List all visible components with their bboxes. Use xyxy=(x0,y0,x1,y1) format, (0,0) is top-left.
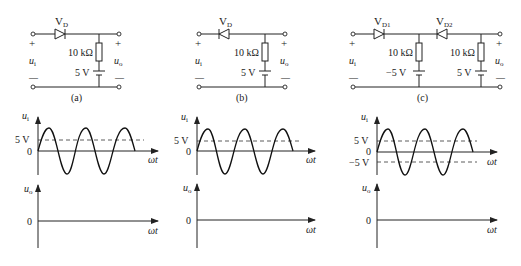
x-axis-label: ωt xyxy=(487,224,497,235)
resistor-icon xyxy=(262,43,268,61)
x-axis-label: ωt xyxy=(306,154,316,165)
input-label: ui xyxy=(29,55,36,68)
output-axes-a: uo 0 ωt xyxy=(24,183,158,248)
output-axes-b: uo 0 ωt xyxy=(183,182,316,248)
diode-label: VD xyxy=(55,15,68,29)
battery-label: 5 V xyxy=(75,67,90,78)
minus-out: — xyxy=(114,72,125,82)
y-axis-label: ui xyxy=(361,111,368,124)
zero-label: 0 xyxy=(366,215,371,226)
minus-in: — xyxy=(348,72,359,82)
diode-icon xyxy=(55,29,65,39)
battery-icon xyxy=(93,71,105,75)
battery-label: 5 V xyxy=(241,67,256,78)
y-axis-label: uo xyxy=(183,182,192,195)
plus-out: + xyxy=(281,37,287,49)
y-axis-label: ui xyxy=(181,111,188,124)
resistor1-icon xyxy=(416,43,422,61)
output-label: uo xyxy=(280,55,289,68)
caption: (a) xyxy=(71,92,82,104)
input-waveform-a: ui 5 V 0 ωt xyxy=(15,110,158,175)
diode1-icon xyxy=(374,29,384,39)
input-waveform-b: ui 5 V 0 ωt xyxy=(174,111,316,175)
battery1-icon xyxy=(413,71,425,75)
y-axis-label: uo xyxy=(24,183,33,196)
minus-in: — xyxy=(194,72,205,82)
x-axis-label: ωt xyxy=(306,224,316,235)
level-neg5v-label: −5 V xyxy=(349,157,370,168)
input-label: ui xyxy=(349,55,356,68)
caption: (b) xyxy=(236,92,248,104)
zero-label: 0 xyxy=(27,146,32,157)
output-label: uo xyxy=(495,55,504,68)
plus-in: + xyxy=(29,37,35,49)
level-5v-label: 5 V xyxy=(15,134,30,145)
diode2-label: VD2 xyxy=(436,15,453,29)
battery2-label: 5 V xyxy=(457,67,472,78)
x-axis-label: ωt xyxy=(487,156,497,167)
level-5v-label: 5 V xyxy=(174,135,189,146)
y-axis-label: ui xyxy=(22,110,29,123)
output-label: uo xyxy=(114,55,123,68)
minus-out: — xyxy=(280,72,291,82)
minus-out: — xyxy=(495,72,506,82)
diode2-icon xyxy=(437,29,447,39)
plus-out: + xyxy=(115,37,121,49)
plus-in: + xyxy=(349,37,355,49)
battery-icon xyxy=(259,71,271,75)
resistor-label: 10 kΩ xyxy=(68,47,93,58)
battery1-label: −5 V xyxy=(386,67,407,78)
plus-out: + xyxy=(496,37,502,49)
zero-label: 0 xyxy=(27,216,32,227)
zero-label: 0 xyxy=(366,146,371,157)
circuit-b: VD 10 kΩ 5 V + + — — ui uo (b) xyxy=(194,15,291,104)
circuit-a: VD 10 kΩ 5 V + + — — ui uo (a) xyxy=(28,15,125,104)
input-label: ui xyxy=(195,55,202,68)
resistor-icon xyxy=(96,43,102,61)
output-axes-c: uo 0 ωt xyxy=(362,182,497,248)
battery2-icon xyxy=(475,71,487,75)
zero-label: 0 xyxy=(186,215,191,226)
plus-in: + xyxy=(195,37,201,49)
resistor2-icon xyxy=(478,43,484,61)
zero-label: 0 xyxy=(186,146,191,157)
diode-label: VD xyxy=(219,15,232,29)
resistor1-label: 10 kΩ xyxy=(388,47,413,58)
diode1-label: VD1 xyxy=(374,15,391,29)
input-waveform-c: ui 5 V 0 −5 V ωt xyxy=(349,111,497,175)
x-axis-label: ωt xyxy=(148,225,158,236)
circuit-c: VD1 VD2 10 kΩ −5 V 10 kΩ 5 V + + — — ui … xyxy=(348,15,506,104)
resistor-label: 10 kΩ xyxy=(234,47,259,58)
level-5v-label: 5 V xyxy=(354,135,369,146)
y-axis-label: uo xyxy=(362,182,371,195)
caption: (c) xyxy=(417,92,428,104)
minus-in: — xyxy=(28,72,39,82)
resistor2-label: 10 kΩ xyxy=(450,47,475,58)
diode-icon xyxy=(219,29,229,39)
x-axis-label: ωt xyxy=(148,154,158,165)
